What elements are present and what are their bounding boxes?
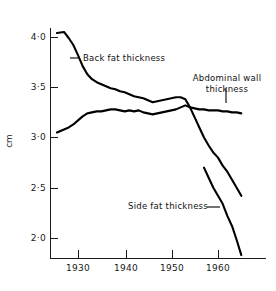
annotation-abdominal-wall-thickness: Abdominal wall thickness <box>185 73 269 95</box>
y-axis-title: cm <box>4 134 14 148</box>
x-tick-label-1960: 1960 <box>206 263 230 273</box>
annotation-abdominal-wall-line2: thickness <box>206 84 248 94</box>
series-line-side-fat-thickness <box>204 168 241 255</box>
y-tick-label-3-5: 3·5 <box>20 82 46 92</box>
y-tick-label-2-0: 2·0 <box>20 233 46 243</box>
x-tick-label-1940: 1940 <box>114 263 138 273</box>
y-tick-label-4-0: 4·0 <box>20 32 46 42</box>
chart-figure: cm 4·0 3·5 3·0 2·5 2·0 1930 1940 1950 19… <box>0 0 276 291</box>
x-tick-label-1930: 1930 <box>66 263 90 273</box>
chart-plot-area <box>0 0 276 291</box>
annotation-abdominal-wall-line1: Abdominal wall <box>193 73 262 83</box>
annotation-side-fat-thickness: Side fat thickness <box>128 201 208 212</box>
series-line-abdominal-wall-thickness <box>57 105 241 132</box>
annotation-back-fat-thickness: Back fat thickness <box>83 53 165 64</box>
y-tick-label-2-5: 2·5 <box>20 183 46 193</box>
x-tick-label-1950: 1950 <box>160 263 184 273</box>
y-tick-label-3-0: 3·0 <box>20 132 46 142</box>
